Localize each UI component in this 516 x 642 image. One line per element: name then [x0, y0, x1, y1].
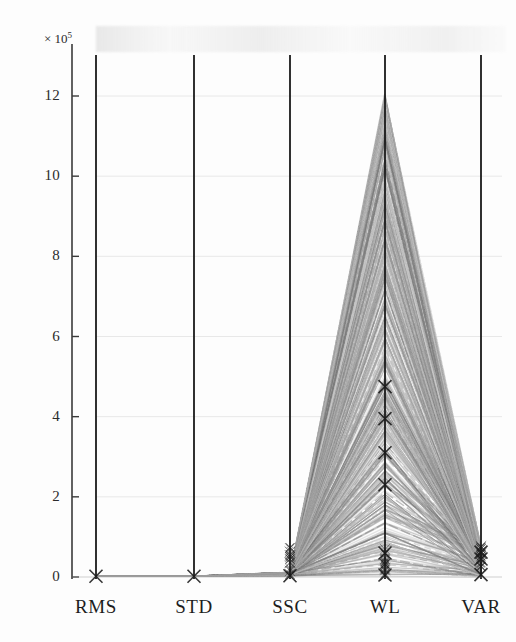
x-axis-label-wl: WL: [340, 596, 430, 618]
plot-canvas: [0, 0, 516, 642]
x-axis-label-ssc: SSC: [245, 596, 335, 618]
y-tick-label-4: 4: [26, 408, 60, 425]
parallel-coordinates-figure: × 105 024681012 RMSSTDSSCWLVAR: [0, 0, 516, 642]
y-tick-label-6: 6: [26, 328, 60, 345]
y-tick-label-2: 2: [26, 488, 60, 505]
y-tick-label-12: 12: [26, 87, 60, 104]
y-tick-label-0: 0: [26, 568, 60, 585]
x-axis-label-rms: RMS: [51, 596, 141, 618]
x-axis-label-var: VAR: [436, 596, 516, 618]
y-tick-label-10: 10: [26, 167, 60, 184]
y-tick-label-8: 8: [26, 247, 60, 264]
x-axis-label-std: STD: [149, 596, 239, 618]
data-polylines-group: [96, 94, 482, 577]
